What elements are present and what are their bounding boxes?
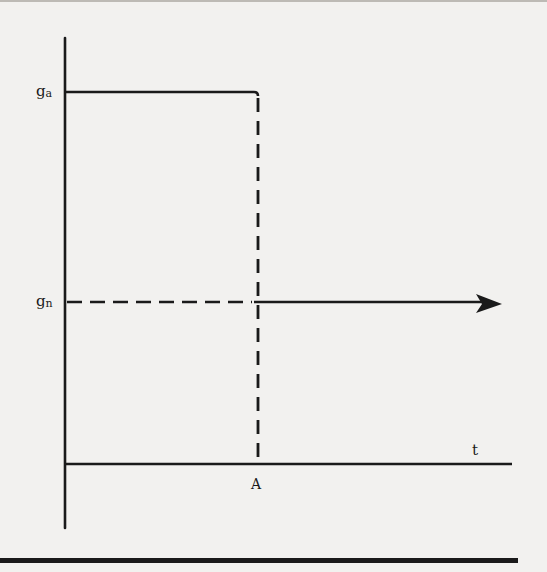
step-diagram: ga gn t A [0,0,547,572]
ga-level-line [65,92,258,96]
diagram-canvas: ga gn t A [0,0,547,572]
ga-label: ga [36,82,53,100]
t-axis-label: t [472,441,478,459]
gn-label: gn [36,292,53,310]
arrowhead-icon [476,294,502,313]
a-marker-label: A [250,476,262,492]
bottom-rule [0,558,518,563]
page-edge [0,0,547,2]
